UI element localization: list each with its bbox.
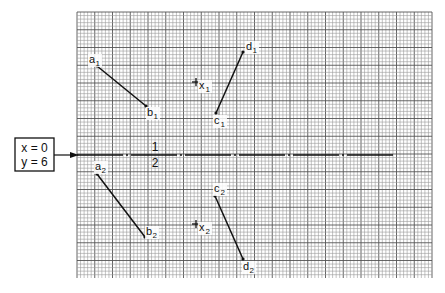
svg-text:2: 2 [152, 156, 159, 170]
svg-text:1: 1 [96, 59, 101, 68]
svg-text:b: b [146, 225, 152, 237]
label-x1: x1 [198, 79, 212, 94]
label-x2: x2 [198, 221, 212, 236]
svg-text:d: d [243, 260, 249, 272]
origin-x-label: x = 0 [21, 141, 48, 155]
svg-text:1: 1 [206, 85, 211, 94]
label-a2: a2 [94, 160, 108, 175]
svg-text:d: d [246, 40, 252, 52]
label-d2: d2 [242, 260, 256, 275]
origin-box: x = 0 y = 6 [15, 138, 54, 171]
label-c2: c2 [213, 182, 227, 197]
svg-text:1: 1 [221, 120, 226, 129]
svg-text:b: b [147, 106, 153, 118]
origin-y-label: y = 6 [21, 155, 48, 169]
svg-text:c: c [214, 114, 220, 126]
svg-text:2: 2 [250, 266, 255, 275]
svg-text:2: 2 [153, 231, 158, 240]
origin-arrow [54, 152, 79, 158]
svg-text:2: 2 [206, 227, 211, 236]
label-c1: c1 [213, 114, 227, 129]
svg-text:1: 1 [253, 46, 258, 55]
svg-text:x: x [199, 221, 205, 233]
svg-text:1: 1 [154, 112, 159, 121]
svg-text:2: 2 [102, 166, 107, 175]
svg-text:x: x [199, 79, 205, 91]
label-a1: a1 [88, 53, 102, 68]
svg-text:c: c [214, 182, 220, 194]
svg-text:2: 2 [221, 188, 226, 197]
label-d1: d1 [245, 40, 259, 55]
grid-diagram: x = 0 y = 6 1 2 a1b1c1d1a2b2c2d2 x1x2 [0, 0, 445, 293]
svg-text:1: 1 [152, 140, 159, 154]
label-b1: b1 [146, 106, 160, 121]
label-b2: b2 [145, 225, 159, 240]
